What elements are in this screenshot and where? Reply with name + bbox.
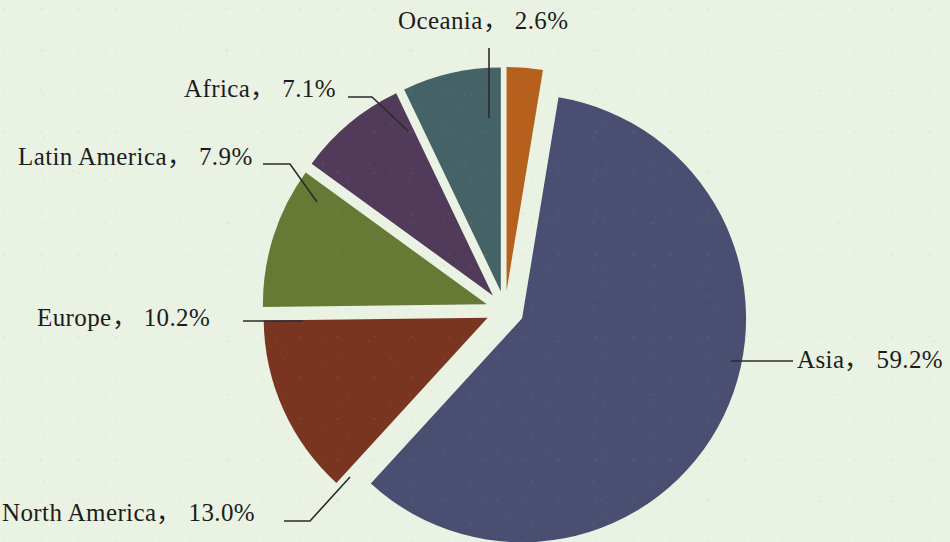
pie-slices-group (263, 67, 746, 542)
leader-line-north-america (284, 477, 350, 521)
slice-label-africa: Africa， 7.1% (184, 76, 336, 101)
pie-chart-figure: Oceania， 2.6% Asia， 59.2% North America，… (0, 0, 950, 542)
slice-label-north-america: North America， 13.0% (2, 500, 255, 525)
pie-chart-svg (0, 0, 950, 542)
slice-label-europe: Europe， 10.2% (37, 305, 210, 330)
slice-label-asia: Asia， 59.2% (797, 347, 943, 372)
slice-label-latin-america: Latin America， 7.9% (18, 144, 253, 169)
slice-label-oceania: Oceania， 2.6% (398, 8, 568, 33)
